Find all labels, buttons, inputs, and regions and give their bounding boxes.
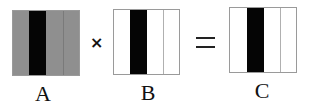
matrix-b-divider — [163, 10, 164, 74]
matrix-c — [229, 7, 297, 73]
matrix-c-black-column — [247, 8, 264, 72]
matrix-c-divider — [280, 8, 281, 72]
equals-bar-bottom — [196, 46, 215, 48]
matrix-b-black-column — [130, 10, 147, 74]
matrix-a — [12, 10, 80, 76]
matrix-a-black-column — [29, 11, 46, 75]
equals-bar-top — [196, 37, 215, 39]
matrix-b — [113, 9, 180, 75]
multiply-operator: × — [90, 35, 103, 51]
label-a: A — [28, 83, 58, 105]
matrix-a-divider — [63, 11, 64, 75]
label-b: B — [133, 82, 163, 104]
label-c: C — [247, 80, 277, 102]
